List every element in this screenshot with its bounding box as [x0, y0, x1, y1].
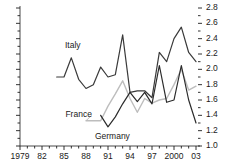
- series-line-italy: [57, 27, 196, 98]
- series-label-france: France: [65, 110, 91, 119]
- series-label-italy: Italy: [65, 41, 81, 50]
- y-tick-label: 1.2: [206, 126, 218, 135]
- y-tick-label: 1.0: [206, 141, 218, 150]
- left-axis-ticks: [16, 8, 20, 146]
- chart-plot-area: [0, 0, 235, 167]
- y-tick-label: 2.2: [206, 49, 218, 58]
- bottom-axis-ticks: [20, 146, 196, 150]
- y-tick-label: 2.0: [206, 64, 218, 73]
- series-label-germany: Germany: [95, 132, 130, 141]
- y-tick-label: 1.8: [206, 80, 218, 89]
- y-tick-label: 2.6: [206, 18, 218, 27]
- y-tick-label: 2.8: [206, 3, 218, 12]
- y-tick-label: 1.6: [206, 95, 218, 104]
- line-chart: 1.01.21.41.61.82.02.22.42.62.8 197982858…: [0, 0, 235, 167]
- right-axis-ticks: [198, 8, 202, 146]
- x-tick-label: 03: [181, 152, 211, 161]
- y-tick-label: 1.4: [206, 110, 218, 119]
- y-tick-label: 2.4: [206, 34, 218, 43]
- series-line-france: [86, 69, 196, 120]
